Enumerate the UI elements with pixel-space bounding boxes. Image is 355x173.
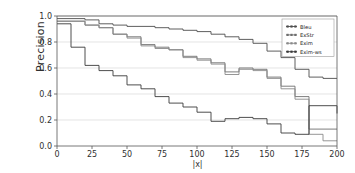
x-tick-label: 200: [329, 150, 344, 159]
y-tick-label: 0.0: [39, 142, 52, 151]
legend-marker-icon: [294, 42, 296, 44]
legend-marker-icon: [290, 25, 292, 27]
x-tick-label: 175: [294, 150, 309, 159]
legend-marker-icon: [290, 42, 292, 44]
legend-marker-icon: [294, 25, 296, 27]
x-tick-label: 0: [54, 150, 59, 159]
legend-item-exim[interactable]: Exim: [300, 40, 313, 46]
chart-legend[interactable]: BleuExStrEximExim-ws: [282, 19, 334, 57]
legend-marker-icon: [287, 42, 289, 44]
y-tick-label: 0.8: [39, 38, 52, 47]
x-axis-ticks: 0255075100125150175200: [54, 146, 344, 159]
legend-marker-icon: [287, 34, 289, 36]
legend-marker-icon: [287, 25, 289, 27]
y-tick-label: 0.6: [39, 64, 52, 73]
x-tick-label: 150: [259, 150, 274, 159]
legend-marker-icon: [287, 51, 289, 53]
x-tick-label: 50: [122, 150, 132, 159]
x-tick-label: 125: [224, 150, 239, 159]
legend-item-exim-ws[interactable]: Exim-ws: [300, 49, 322, 55]
y-axis-ticks: 0.00.20.40.60.81.0: [39, 12, 57, 151]
y-tick-label: 0.2: [39, 116, 52, 125]
y-tick-label: 0.4: [39, 90, 52, 99]
legend-marker-icon: [290, 51, 292, 53]
legend-item-exstr[interactable]: ExStr: [300, 32, 315, 38]
x-tick-label: 75: [157, 150, 167, 159]
figure-canvas: Precision |x| 0.00.20.40.60.81.0 0255075…: [0, 0, 355, 173]
chart-plot-area: 0.00.20.40.60.81.0 025507510012515017520…: [0, 0, 355, 173]
legend-item-bleu[interactable]: Bleu: [300, 24, 311, 30]
legend-marker-icon: [294, 34, 296, 36]
legend-marker-icon: [290, 34, 292, 36]
x-tick-label: 100: [189, 150, 204, 159]
y-tick-label: 1.0: [39, 12, 52, 21]
legend-marker-icon: [294, 51, 296, 53]
x-tick-label: 25: [87, 150, 97, 159]
